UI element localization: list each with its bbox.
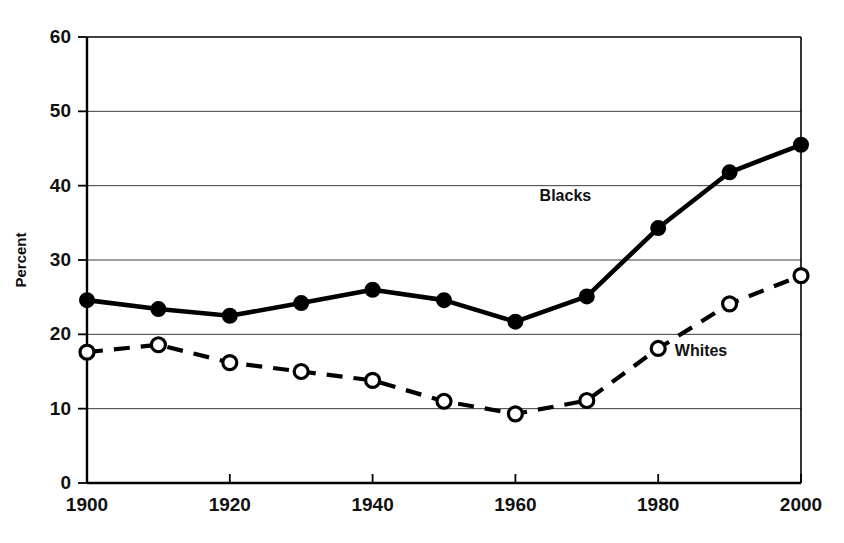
y-axis-title: Percent — [12, 232, 29, 287]
x-tick-label-1980: 1980 — [637, 494, 679, 515]
series-lines — [87, 145, 801, 414]
data-point-blacks-1970 — [580, 289, 594, 303]
series-label-whites: Whites — [675, 342, 728, 359]
data-point-whites-1900 — [80, 345, 94, 359]
series-markers — [80, 138, 808, 421]
data-point-blacks-1950 — [437, 293, 451, 307]
data-point-blacks-1940 — [366, 283, 380, 297]
data-point-whites-1960 — [508, 407, 522, 421]
data-point-blacks-1920 — [223, 309, 237, 323]
x-tick-label-1940: 1940 — [351, 494, 393, 515]
y-tick-label-30: 30 — [50, 249, 71, 270]
data-point-whites-1940 — [366, 373, 380, 387]
y-tick-label-20: 20 — [50, 323, 71, 344]
line-chart: 0102030405060 190019201940196019802000 B… — [0, 0, 844, 543]
data-point-blacks-1990 — [723, 165, 737, 179]
data-point-blacks-1980 — [651, 221, 665, 235]
x-tick-label-2000: 2000 — [780, 494, 822, 515]
x-tick-label-1900: 1900 — [66, 494, 108, 515]
series-annotations: BlacksWhites — [540, 187, 728, 359]
data-point-blacks-1900 — [80, 293, 94, 307]
data-point-whites-1910 — [151, 338, 165, 352]
x-axis-tick-labels: 190019201940196019802000 — [66, 494, 822, 515]
y-tick-label-10: 10 — [50, 398, 71, 419]
y-axis-tick-labels: 0102030405060 — [50, 26, 71, 493]
data-point-whites-1930 — [294, 365, 308, 379]
data-point-whites-1950 — [437, 394, 451, 408]
data-point-whites-1970 — [580, 393, 594, 407]
y-tick-label-40: 40 — [50, 175, 71, 196]
gridlines — [87, 111, 801, 408]
y-axis-title-group: Percent — [12, 232, 29, 287]
data-point-blacks-1960 — [508, 315, 522, 329]
y-tick-label-60: 60 — [50, 26, 71, 47]
data-point-blacks-1910 — [151, 302, 165, 316]
data-point-whites-2000 — [794, 269, 808, 283]
data-point-whites-1920 — [223, 356, 237, 370]
chart-container: 0102030405060 190019201940196019802000 B… — [0, 0, 844, 543]
data-point-whites-1980 — [651, 341, 665, 355]
y-tick-label-50: 50 — [50, 100, 71, 121]
data-point-blacks-2000 — [794, 138, 808, 152]
data-point-whites-1990 — [723, 297, 737, 311]
series-label-blacks: Blacks — [540, 187, 592, 204]
x-tick-label-1960: 1960 — [494, 494, 536, 515]
y-tick-label-0: 0 — [60, 472, 71, 493]
data-point-blacks-1930 — [294, 296, 308, 310]
x-tick-label-1920: 1920 — [209, 494, 251, 515]
